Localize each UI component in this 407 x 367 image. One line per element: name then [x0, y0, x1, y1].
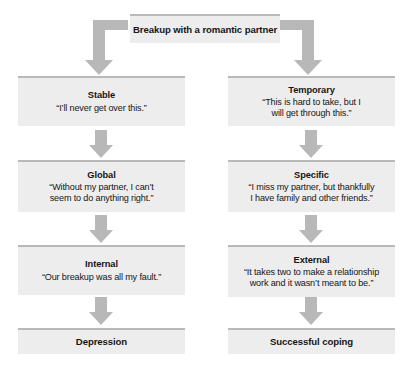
node-root[interactable]: Breakup with a romantic partner [130, 14, 280, 43]
node-global-quote: “Without my partner, I can’t seem to do … [49, 182, 153, 204]
node-global[interactable]: Global “Without my partner, I can’t seem… [18, 160, 185, 212]
quote-line: will get through this.” [262, 108, 360, 119]
quote-line: I have family and other friends.” [249, 193, 375, 204]
node-successful-coping-label: Successful coping [270, 336, 353, 348]
node-successful-coping[interactable]: Successful coping [228, 328, 395, 354]
node-external[interactable]: External “It takes two to make a relatio… [228, 245, 395, 297]
connector-root-to-left [85, 20, 128, 75]
connector-left-stable-to-global [89, 130, 113, 158]
quote-line: seem to do anything right.” [49, 193, 153, 204]
node-external-quote: “It takes two to make a relationship wor… [244, 267, 379, 289]
flowchart-diagram: Breakup with a romantic partner Stable “… [0, 0, 407, 367]
node-root-label: Breakup with a romantic partner [133, 24, 277, 36]
connector-root-to-right [279, 20, 322, 75]
node-temporary[interactable]: Temporary “This is hard to take, but I w… [228, 76, 395, 126]
node-depression-label: Depression [76, 336, 127, 348]
node-depression[interactable]: Depression [18, 328, 185, 354]
node-specific[interactable]: Specific “I miss my partner, but thankfu… [228, 160, 395, 212]
quote-line: “This is hard to take, but I [262, 97, 360, 108]
node-external-title: External [294, 255, 330, 266]
node-stable-quote: “I’ll never get over this.” [56, 103, 146, 114]
quote-line: “Our breakup was all my fault.” [42, 272, 161, 283]
quote-line: “I miss my partner, but thankfully [249, 182, 375, 193]
quote-line: “I’ll never get over this.” [56, 103, 146, 114]
node-internal-title: Internal [85, 259, 118, 270]
connector-right-temporary-to-specific [299, 130, 323, 158]
node-specific-quote: “I miss my partner, but thankfully I hav… [249, 182, 375, 204]
connector-right-external-to-coping [299, 297, 323, 325]
node-internal[interactable]: Internal “Our breakup was all my fault.” [18, 245, 185, 295]
node-stable[interactable]: Stable “I’ll never get over this.” [18, 76, 185, 126]
connector-right-specific-to-external [299, 215, 323, 243]
quote-line: work and it wasn’t meant to be.” [244, 278, 379, 289]
node-global-title: Global [87, 170, 115, 181]
node-temporary-quote: “This is hard to take, but I will get th… [262, 97, 360, 119]
quote-line: “Without my partner, I can’t [49, 182, 153, 193]
node-stable-title: Stable [88, 90, 115, 101]
connector-left-internal-to-depression [89, 297, 113, 325]
node-temporary-title: Temporary [288, 85, 334, 96]
connector-left-global-to-internal [89, 215, 113, 243]
node-specific-title: Specific [294, 170, 329, 181]
quote-line: “It takes two to make a relationship [244, 267, 379, 278]
node-internal-quote: “Our breakup was all my fault.” [42, 272, 161, 283]
